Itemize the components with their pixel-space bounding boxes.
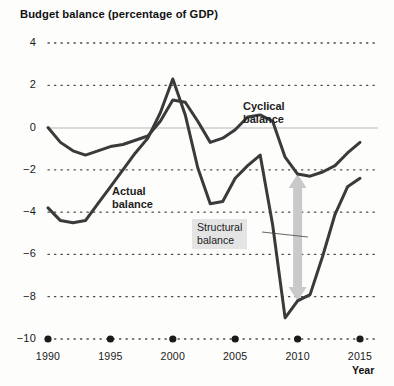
cyclical-balance-label: Cyclical balance: [243, 100, 285, 125]
chart-plot-area: [0, 0, 394, 386]
cyclical-balance-label-line2: balance: [243, 113, 285, 126]
x-axis-tick-label: 1995: [88, 350, 132, 362]
x-axis-tick-label: 2000: [151, 350, 195, 362]
structural-balance-callout-line2: balance: [197, 234, 242, 247]
x-axis-tick-label: 1990: [26, 350, 70, 362]
structural-balance-arrow: [289, 174, 307, 301]
y-axis-tick-label: −10: [10, 332, 36, 344]
x-axis-title: Year: [352, 364, 374, 376]
actual-balance-label: Actual balance: [112, 185, 153, 210]
y-axis-tick-label: −2: [10, 163, 36, 175]
x-axis-tick-label: 2010: [276, 350, 320, 362]
actual-balance-label-line1: Actual: [112, 185, 153, 198]
x-axis-tick-label: 2005: [213, 350, 257, 362]
structural-balance-callout: Structural balance: [192, 219, 247, 249]
actual-balance-label-line2: balance: [112, 198, 153, 211]
y-axis-tick-label: 2: [10, 78, 36, 90]
gridlines-group: [48, 43, 378, 339]
data-series-group: [48, 79, 360, 318]
y-axis-tick-label: −4: [10, 205, 36, 217]
structural-balance-callout-line1: Structural: [197, 221, 242, 234]
y-axis-tick-label: −6: [10, 247, 36, 259]
y-axis-tick-label: 4: [10, 36, 36, 48]
y-axis-tick-label: 0: [10, 121, 36, 133]
y-axis-tick-label: −8: [10, 290, 36, 302]
budget-balance-chart: Budget balance (percentage of GDP) 420−2…: [0, 0, 394, 386]
x-axis-tick-label: 2015: [338, 350, 382, 362]
cyclical-balance-label-line1: Cyclical: [243, 100, 285, 113]
